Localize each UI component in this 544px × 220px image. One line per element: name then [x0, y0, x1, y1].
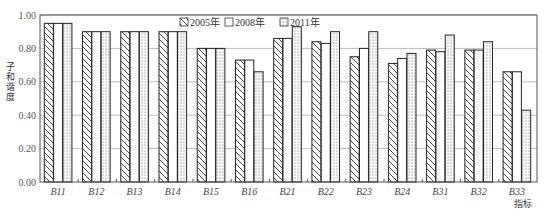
bar-b11-2005 — [44, 23, 53, 182]
bar-group-b16 — [235, 60, 263, 182]
bar-b13-2005 — [121, 32, 130, 182]
x-tick-label: B16 — [241, 186, 257, 197]
bar-group-b31 — [427, 35, 455, 182]
bar-group-b11 — [44, 23, 72, 182]
bar-group-b32 — [465, 42, 493, 182]
legend-swatch — [180, 18, 188, 26]
x-tick-label: B23 — [356, 186, 372, 197]
bar-b31-2008 — [436, 52, 445, 182]
y-axis-title: 子和谐度 — [5, 62, 15, 102]
bar-b21-2005 — [274, 38, 283, 182]
x-tick-label: B24 — [394, 186, 410, 197]
bar-b12-2008 — [92, 32, 101, 182]
bar-b22-2011 — [331, 32, 340, 182]
bar-b24-2008 — [398, 58, 407, 182]
legend-label: 2011年 — [290, 16, 320, 28]
bar-b15-2005 — [197, 48, 206, 182]
legend-label: 2005年 — [190, 16, 220, 28]
bar-b24-2005 — [388, 63, 397, 182]
x-tick-label: B21 — [279, 186, 295, 197]
bar-b13-2011 — [139, 32, 148, 182]
legend-label: 2008年 — [235, 16, 265, 28]
bar-b21-2011 — [292, 27, 301, 182]
x-tick-label: B32 — [471, 186, 487, 197]
legend-swatch — [225, 18, 233, 26]
legend-item-2005: 2005年 — [180, 16, 220, 28]
bar-group-b22 — [312, 32, 340, 182]
bar-b15-2011 — [216, 48, 225, 182]
x-axis-title: 指标 — [514, 198, 532, 209]
x-tick-label: B13 — [127, 186, 143, 197]
bar-b12-2005 — [83, 32, 92, 182]
legend-item-2008: 2008年 — [225, 16, 265, 28]
bar-group-b15 — [197, 48, 225, 182]
legend-item-2011: 2011年 — [280, 16, 320, 28]
x-tick-label: B14 — [165, 186, 181, 197]
bar-group-b24 — [388, 53, 416, 182]
legend-swatch — [280, 18, 288, 26]
bar-group-b12 — [83, 32, 111, 182]
x-tick-label: B33 — [509, 186, 525, 197]
bar-group-b14 — [159, 32, 187, 182]
x-tick-label: B22 — [318, 186, 334, 197]
legend: 2005年2008年2011年 — [180, 16, 320, 28]
bar-b32-2005 — [465, 50, 474, 182]
bar-b23-2008 — [359, 48, 368, 182]
bar-b16-2008 — [245, 60, 254, 182]
bar-b33-2008 — [512, 72, 521, 182]
bar-b33-2005 — [503, 72, 512, 182]
bar-b23-2005 — [350, 57, 359, 182]
bar-b31-2011 — [445, 35, 454, 182]
y-tick-label: 0.80 — [19, 43, 37, 54]
y-tick-label: 0.20 — [19, 143, 37, 154]
bar-b16-2011 — [254, 72, 263, 182]
x-tick-label: B31 — [432, 186, 448, 197]
bar-group-b13 — [121, 32, 149, 182]
bar-group-b21 — [274, 27, 302, 182]
y-tick-label: 0.60 — [19, 76, 37, 87]
bar-chart: 0.000.200.400.600.801.00B11B12B13B14B15B… — [0, 0, 544, 220]
bar-b23-2011 — [369, 32, 378, 182]
bar-b11-2011 — [63, 23, 72, 182]
bar-b14-2008 — [168, 32, 177, 182]
bar-b14-2005 — [159, 32, 168, 182]
y-tick-label: 0.40 — [19, 110, 37, 121]
bar-b32-2008 — [474, 50, 483, 182]
bar-b33-2011 — [522, 110, 531, 182]
bar-groups — [44, 23, 530, 182]
bar-b11-2008 — [54, 23, 63, 182]
y-tick-label: 0.00 — [19, 177, 37, 188]
x-tick-label: B15 — [203, 186, 219, 197]
bar-b22-2005 — [312, 42, 321, 182]
bar-b22-2008 — [321, 43, 330, 182]
bar-group-b23 — [350, 32, 378, 182]
x-tick-label: B11 — [50, 186, 65, 197]
bar-b15-2008 — [207, 48, 216, 182]
bar-group-b33 — [503, 72, 531, 182]
bar-b12-2011 — [101, 32, 110, 182]
bar-b16-2005 — [235, 60, 244, 182]
bar-b13-2008 — [130, 32, 139, 182]
bar-b24-2011 — [407, 53, 416, 182]
bar-b21-2008 — [283, 38, 292, 182]
bar-b32-2011 — [483, 42, 492, 182]
bar-b31-2005 — [427, 50, 436, 182]
y-tick-label: 1.00 — [19, 10, 37, 21]
bar-b14-2011 — [178, 32, 187, 182]
x-tick-label: B12 — [88, 186, 104, 197]
